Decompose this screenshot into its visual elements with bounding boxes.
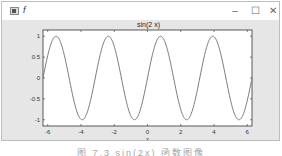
figure-caption: 图 7.3 sin(2x) 函数图像 (0, 146, 282, 156)
y-tick-label: -0.5 (30, 96, 41, 102)
x-axis-label: x (146, 136, 149, 140)
x-tick-label: 0 (146, 129, 150, 135)
x-tick-label: 4 (212, 129, 216, 135)
window-title: f (23, 5, 26, 15)
x-tick-label: 2 (179, 129, 183, 135)
plot-axes[interactable]: -6-4-2024610.50-0.5-1x (2, 20, 281, 140)
figure-window: f – ☐ ✕ sin(2 x) -6-4-2024610.50-0.5-1x (1, 1, 280, 141)
minimize-button[interactable]: – (227, 4, 243, 17)
x-tick-label: -4 (78, 129, 84, 135)
close-button[interactable]: ✕ (265, 4, 281, 17)
y-tick-label: -1 (35, 117, 41, 123)
y-tick-label: 0.5 (32, 54, 41, 60)
maximize-button[interactable]: ☐ (247, 4, 263, 17)
x-tick-label: -2 (112, 129, 118, 135)
figure-area: sin(2 x) -6-4-2024610.50-0.5-1x (2, 20, 279, 140)
y-tick-label: 1 (37, 33, 41, 39)
x-tick-label: -6 (45, 129, 51, 135)
x-tick-label: 6 (246, 129, 250, 135)
y-tick-label: 0 (37, 75, 41, 81)
figure-icon (10, 7, 19, 15)
title-bar[interactable]: f – ☐ ✕ (2, 2, 279, 20)
